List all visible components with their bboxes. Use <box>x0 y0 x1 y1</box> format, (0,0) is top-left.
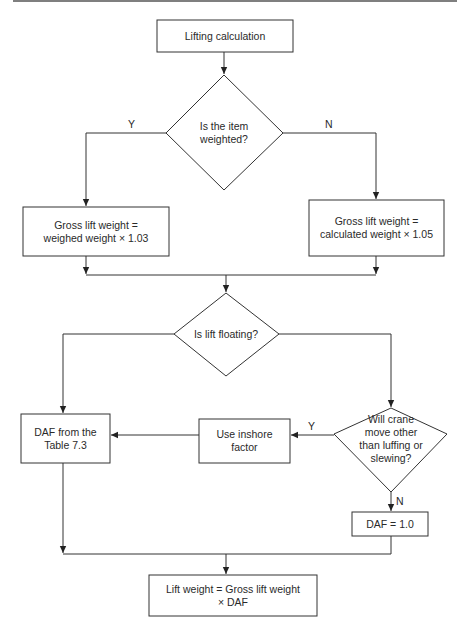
edge-label-weighted-yes: Y <box>128 118 135 130</box>
edge-weighted-no <box>283 133 376 199</box>
edge-label-crane-yes: Y <box>308 420 315 432</box>
lift-weight-line2: × DAF <box>218 596 248 609</box>
crane-decision-node: Will crane move other than luffing or sl… <box>345 408 437 470</box>
gross-weighed-node: Gross lift weight = weighed weight × 1.0… <box>23 207 169 256</box>
daf-table-node: DAF from the Table 7.3 <box>21 414 110 463</box>
edge-label-crane-no: N <box>396 495 404 507</box>
gross-weighed-line1: Gross lift weight = <box>54 219 138 232</box>
edge-label-weighted-no: N <box>325 118 333 130</box>
daf-one-node: DAF = 1.0 <box>352 512 428 536</box>
floating-label: Is lift floating? <box>194 328 258 341</box>
inshore-factor-node: Use inshore factor <box>199 419 290 463</box>
inshore-line1: Use inshore <box>216 428 272 441</box>
crane-line3: than luffing or <box>359 439 422 452</box>
lift-weight-line1: Lift weight = Gross lift weight <box>166 583 300 596</box>
inshore-line2: factor <box>231 441 257 454</box>
edge-weighted-yes <box>86 133 166 206</box>
crane-line1: Will crane <box>368 413 414 426</box>
crane-line2: move other <box>365 426 418 439</box>
gross-calc-line1: Gross lift weight = <box>335 215 419 228</box>
start-node: Lifting calculation <box>157 20 293 52</box>
daf-table-line2: Table 7.3 <box>44 439 87 452</box>
weighted-label-line2: weighted? <box>200 133 248 146</box>
weighted-decision-node: Is the item weighted? <box>180 112 268 154</box>
edge-floating-to-crane <box>279 334 391 407</box>
gross-calculated-node: Gross lift weight = calculated weight × … <box>309 200 444 256</box>
flowchart-canvas <box>0 0 465 632</box>
weighted-label-line1: Is the item <box>200 120 248 133</box>
gross-weighed-line2: weighed weight × 1.03 <box>44 232 149 245</box>
edge-floating-to-table <box>63 334 174 413</box>
floating-decision-node: Is lift floating? <box>180 324 272 344</box>
daf-table-line1: DAF from the <box>34 426 96 439</box>
start-label: Lifting calculation <box>185 30 266 43</box>
crane-line4: slewing? <box>371 452 412 465</box>
daf-one-label: DAF = 1.0 <box>366 518 414 531</box>
gross-calc-line2: calculated weight × 1.05 <box>320 228 433 241</box>
lift-weight-node: Lift weight = Gross lift weight × DAF <box>149 575 317 616</box>
